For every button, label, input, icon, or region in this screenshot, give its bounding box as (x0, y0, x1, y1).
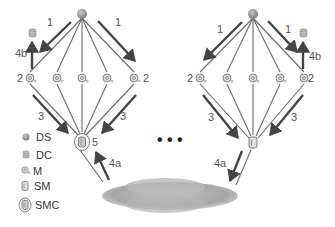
label-step3-left: 3 (208, 111, 214, 123)
dc-node (29, 29, 36, 37)
m-icon (22, 167, 31, 174)
m-node (196, 74, 207, 83)
link-smc-cloud (80, 150, 103, 182)
legend-label: SMC (35, 199, 60, 211)
link (200, 18, 253, 72)
label-step3-right: 3 (291, 111, 297, 123)
legend-item-sm: SM (22, 180, 51, 192)
m-to-sm-links (200, 84, 304, 185)
legend-label: DC (36, 149, 52, 161)
m-node (249, 74, 260, 83)
link-sm-cloud (236, 150, 251, 185)
m-nodes-right (196, 74, 311, 83)
legend-label: M (33, 165, 42, 177)
label-step1-left: 1 (47, 16, 53, 28)
smc-node (75, 134, 90, 151)
legend-item-dc: DC (23, 149, 52, 161)
label-step5: 5 (92, 136, 98, 148)
label-step4a: 4a (109, 157, 122, 169)
legend: DS DC M SM (19, 131, 60, 212)
label-step4b: 4b (309, 50, 321, 62)
label-step3-right: 3 (120, 110, 126, 122)
m-node (53, 74, 64, 83)
ds-icon (23, 134, 30, 141)
dc-node (300, 29, 307, 37)
dc-icon (23, 151, 29, 158)
link (30, 18, 82, 72)
m-node (78, 74, 89, 83)
link (57, 18, 82, 72)
ds-node (248, 9, 258, 19)
ds-node (77, 9, 87, 19)
legend-item-ds: DS (23, 131, 52, 143)
label-step4b: 4b (15, 47, 27, 59)
label-step1-right: 1 (285, 23, 291, 35)
m-node (26, 74, 37, 83)
sm-node (249, 137, 257, 148)
label-step2-left: 2 (17, 72, 23, 84)
label-step2-left: 2 (187, 72, 193, 84)
arrow-step1-left (40, 22, 71, 52)
ellipsis: • • • (157, 131, 183, 148)
link (253, 18, 280, 72)
legend-item-smc: SMC (19, 198, 60, 212)
cluster-right: 1 1 4b 2 2 3 3 4a (187, 9, 321, 185)
label-step3-left: 3 (38, 110, 44, 122)
m-nodes-left (26, 74, 141, 83)
label-step2-right: 2 (308, 72, 314, 84)
link (84, 84, 107, 134)
m-node (130, 74, 141, 83)
arrow-step3-right (270, 95, 303, 135)
network-diagram: 1 1 4b 2 2 3 3 5 4a (0, 0, 335, 227)
m-node (103, 74, 114, 83)
legend-item-m: M (22, 165, 42, 177)
label-step1-left: 1 (217, 23, 223, 35)
m-node (276, 74, 287, 83)
label-step1-right: 1 (115, 16, 121, 28)
link (86, 84, 134, 135)
label-step2-right: 2 (143, 72, 149, 84)
link (253, 18, 304, 72)
legend-label: DS (36, 131, 51, 143)
sm-icon (22, 182, 28, 191)
legend-label: SM (34, 180, 51, 192)
link (227, 18, 253, 72)
cloud (102, 178, 238, 213)
label-step4a: 4a (214, 157, 227, 169)
link (82, 18, 134, 72)
arrow-step1-right (268, 21, 297, 52)
smc-icon (19, 198, 31, 212)
m-node (223, 74, 234, 83)
